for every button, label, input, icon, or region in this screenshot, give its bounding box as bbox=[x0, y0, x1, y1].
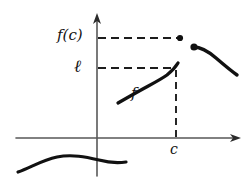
label-limit-value: ℓ bbox=[74, 58, 81, 75]
label-point-c-text: c bbox=[170, 141, 178, 157]
label-f-of-c-text: f(c) bbox=[57, 26, 83, 44]
diagram-canvas bbox=[0, 0, 252, 187]
label-f-of-c: f(c) bbox=[57, 28, 83, 43]
lower-left-wave-curve bbox=[18, 156, 126, 172]
limit-diagram-figure: f(c) ℓ f c bbox=[0, 0, 252, 187]
label-limit-value-text: ℓ bbox=[74, 56, 81, 76]
right-branch-curve bbox=[194, 47, 237, 75]
isolated-point-dot bbox=[177, 35, 183, 41]
label-function-f-text: f bbox=[131, 84, 137, 102]
left-branch-curve bbox=[118, 63, 178, 103]
label-function-f: f bbox=[131, 86, 137, 101]
label-point-c: c bbox=[170, 142, 178, 156]
